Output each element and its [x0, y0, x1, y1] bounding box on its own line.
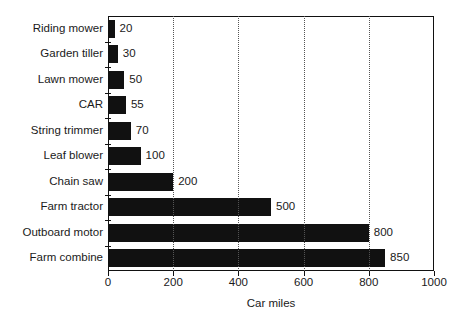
category-label: Farm combine [0, 252, 103, 264]
gridline [238, 16, 239, 271]
category-label: Lawn mower [0, 74, 103, 86]
gridline [369, 16, 370, 271]
gridline [304, 16, 305, 271]
category-label: Leaf blower [0, 150, 103, 162]
x-axis-tick-label: 400 [229, 277, 248, 289]
x-axis-tick-label: 0 [105, 277, 111, 289]
category-label: String trimmer [0, 125, 103, 137]
category-label: Riding mower [0, 23, 103, 35]
category-label: Chain saw [0, 176, 103, 188]
x-axis-title: Car miles [108, 298, 434, 310]
category-label: Garden tiller [0, 48, 103, 60]
x-axis-tick-label: 200 [164, 277, 183, 289]
x-axis-tick-label: 1000 [421, 277, 447, 289]
bar-chart: 2030505570100200500800850 Riding mowerGa… [0, 0, 469, 327]
category-label: Farm tractor [0, 201, 103, 213]
x-axis-tick-label: 600 [294, 277, 313, 289]
category-label: CAR [0, 99, 103, 111]
gridline [173, 16, 174, 271]
x-axis-tick-label: 800 [359, 277, 378, 289]
category-axis-labels: Riding mowerGarden tillerLawn mowerCARSt… [0, 16, 103, 271]
x-axis-gridlines [108, 16, 434, 271]
category-label: Outboard motor [0, 227, 103, 239]
